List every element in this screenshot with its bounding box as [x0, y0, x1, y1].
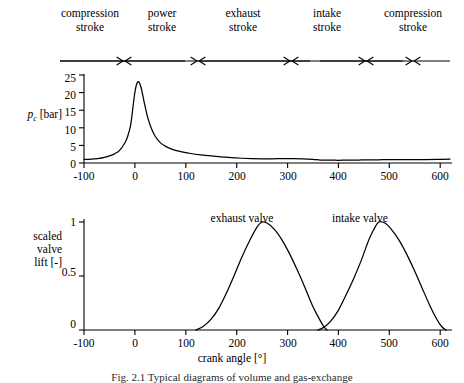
stroke-arrow-band [0, 52, 464, 70]
valve-plot-area [0, 205, 464, 355]
x-axis-title: crank angle [°] [0, 352, 464, 364]
figure-caption: Fig. 2.1 Typical diagrams of volume and … [0, 371, 464, 383]
pressure-xtick-300: 300 [268, 170, 308, 182]
stroke-label-line2: stroke [368, 20, 458, 34]
stroke-label-line2: stroke [48, 20, 132, 34]
stroke-label-line1: compression [368, 6, 458, 20]
valve-xtick-500: 500 [369, 337, 409, 349]
stroke-label-line2: stroke [293, 20, 361, 34]
pressure-xtick-600: 600 [420, 170, 460, 182]
chart-cylinder-pressure: pc [bar] 25 20 15 10 5 0 [0, 70, 464, 190]
intake-valve-curve [318, 222, 446, 330]
stroke-label-exhaust: exhaust stroke [204, 6, 282, 34]
stroke-label-row: compression stroke power stroke exhaust … [0, 6, 464, 48]
stroke-label-line1: exhaust [204, 6, 282, 20]
chart-scaled-valve-lift: scaled valve lift [-] 1 0.5 0 exhaust va… [0, 205, 464, 355]
pressure-xtick--100: -100 [64, 170, 104, 182]
stroke-label-intake: intake stroke [293, 6, 361, 34]
pressure-xtick-200: 200 [217, 170, 257, 182]
pressure-xtick-100: 100 [166, 170, 206, 182]
valve-xtick-600: 600 [420, 337, 460, 349]
valve-xtick-400: 400 [318, 337, 358, 349]
stroke-label-power: power stroke [125, 6, 199, 34]
stroke-label-line1: power [125, 6, 199, 20]
stroke-label-line2: stroke [204, 20, 282, 34]
stroke-label-compression-1: compression stroke [48, 6, 132, 34]
figure-container: compression stroke power stroke exhaust … [0, 0, 464, 383]
stroke-label-compression-2: compression stroke [368, 6, 458, 34]
valve-xtick-100: 100 [166, 337, 206, 349]
valve-xtick-200: 200 [217, 337, 257, 349]
valve-xtick-300: 300 [268, 337, 308, 349]
pressure-curve [84, 82, 450, 160]
stroke-label-line2: stroke [125, 20, 199, 34]
stroke-label-line1: intake [293, 6, 361, 20]
pressure-xtick-500: 500 [369, 170, 409, 182]
stroke-label-line1: compression [48, 6, 132, 20]
valve-xtick--100: -100 [64, 337, 104, 349]
exhaust-valve-curve [196, 222, 327, 330]
pressure-xtick-400: 400 [318, 170, 358, 182]
pressure-xtick-0: 0 [115, 170, 155, 182]
valve-xtick-0: 0 [115, 337, 155, 349]
